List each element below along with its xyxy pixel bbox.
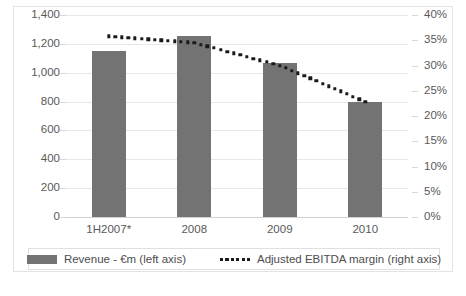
ebitda-margin-line-dot [302,74,305,77]
y-tick-mark-left [60,217,66,218]
chart-card: 02004006008001,0001,2001,400 0%5%10%15%2… [13,6,453,272]
y-tick-mark-right [412,116,418,117]
bar-revenue-2008 [177,36,211,217]
y-axis-right-tick-label: 5% [424,186,441,198]
y-axis-right-tick-label: 30% [424,60,447,72]
y-axis-left-tick-label: 1,400 [31,9,60,21]
y-axis-left-tick-label: 1,000 [31,67,60,79]
ebitda-margin-line-dot [114,35,117,38]
ebitda-margin-line-dot [186,41,189,44]
y-axis-right-tick-label: 0% [424,211,441,223]
ebitda-margin-line-dot [258,59,261,62]
ebitda-margin-line-dot [219,48,222,51]
chart-plot-wrapper: 02004006008001,0001,2001,400 0%5%10%15%2… [14,7,454,217]
ebitda-margin-line-dot [315,79,318,82]
y-tick-mark-left [60,44,66,45]
ebitda-margin-line-dot [271,62,274,65]
ebitda-margin-line-dot [296,72,299,75]
ebitda-margin-line-dot [127,36,130,39]
ebitda-margin-line-dot [351,95,354,98]
y-axis-left-tick-label: 800 [41,96,60,108]
y-axis-right-tick-label: 25% [424,85,447,97]
legend-bar-swatch-icon [27,255,57,264]
y-axis-right-tick-label: 15% [424,136,447,148]
ebitda-margin-line-dot [140,37,143,40]
ebitda-margin-line-dot [199,43,202,46]
x-axis-tick-label-2009: 2009 [267,223,293,235]
gridline [66,15,408,16]
ebitda-margin-line-dot [245,55,248,58]
y-tick-mark-right [412,40,418,41]
ebitda-margin-line-dot [120,36,123,39]
axis-baseline [66,217,408,218]
y-tick-mark-left [60,159,66,160]
ebitda-margin-line-dot [212,46,215,49]
x-axis-tick-label-1H2007: 1H2007* [86,223,131,235]
ebitda-margin-line-dot [357,98,360,101]
ebitda-margin-line-dot [284,66,287,69]
legend-label-ebitda-margin: Adjusted EBITDA margin (right axis) [257,253,441,265]
ebitda-margin-line-dot [239,53,242,56]
bar-revenue-1H2007 [92,51,126,217]
ebitda-margin-line-dot [179,40,182,43]
ebitda-margin-line-dot [345,92,348,95]
y-axis-left-tick-label: 600 [41,125,60,137]
ebitda-margin-line-dot [278,64,281,67]
chart-legend: Revenue - €m (left axis) Adjusted EBITDA… [28,248,440,270]
ebitda-margin-line-dot [153,38,156,41]
ebitda-margin-line-dot [252,57,255,60]
y-axis-right-tick-label: 35% [424,35,447,47]
legend-item-ebitda-margin: Adjusted EBITDA margin (right axis) [220,253,441,265]
y-tick-mark-right [412,91,418,92]
y-axis-right-tick-label: 20% [424,110,447,122]
bar-revenue-2009 [263,63,297,217]
plot-area [66,15,408,217]
x-axis-tick-label-2008: 2008 [181,223,207,235]
legend-dotted-line-swatch-icon [220,255,250,264]
y-tick-mark-right [412,192,418,193]
y-tick-mark-right [412,66,418,67]
bar-revenue-2010 [348,102,382,217]
ebitda-margin-line-dot [364,100,367,103]
ebitda-margin-line-dot [290,69,293,72]
y-tick-mark-right [412,217,418,218]
y-tick-mark-right [412,141,418,142]
y-axis-left-tick-label: 400 [41,154,60,166]
ebitda-margin-line-dot [193,41,196,44]
y-tick-mark-left [60,188,66,189]
ebitda-margin-line-dot [333,87,336,90]
y-axis-right-tick-label: 10% [424,161,447,173]
ebitda-margin-line-dot [232,52,235,55]
ebitda-margin-line-dot [339,90,342,93]
x-axis-category-labels: 1H2007*200820092010 [66,223,408,241]
ebitda-margin-line-dot [265,60,268,63]
x-axis-tick-label-2010: 2010 [352,223,378,235]
y-tick-mark-right [412,167,418,168]
y-axis-left-tick-label: 1,200 [31,38,60,50]
gridline [66,44,408,45]
legend-label-revenue: Revenue - €m (left axis) [64,253,186,265]
y-axis-right-tick-label: 40% [424,9,447,21]
ebitda-margin-line-dot [107,35,110,38]
y-tick-mark-left [60,15,66,16]
ebitda-margin-line-dot [160,39,163,42]
y-tick-mark-left [60,73,66,74]
ebitda-margin-line-dot [225,50,228,53]
ebitda-margin-line-dot [206,45,209,48]
ebitda-margin-line-dot [321,82,324,85]
ebitda-margin-line-dot [309,77,312,80]
ebitda-margin-line-dot [133,37,136,40]
y-axis-right: 0%5%10%15%20%25%30%35%40% [412,7,454,217]
ebitda-margin-line-dot [166,39,169,42]
y-axis-left-tick-label: 200 [41,182,60,194]
y-tick-mark-left [60,102,66,103]
ebitda-margin-line-dot [173,40,176,43]
legend-item-revenue: Revenue - €m (left axis) [27,253,186,265]
y-tick-mark-right [412,15,418,16]
y-axis-left: 02004006008001,0001,2001,400 [14,7,60,217]
ebitda-margin-line-dot [147,38,150,41]
ebitda-margin-line-dot [327,85,330,88]
y-tick-mark-left [60,130,66,131]
